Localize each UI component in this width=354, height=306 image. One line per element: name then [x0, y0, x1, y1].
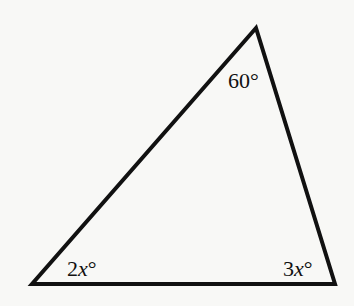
- angle-bottom-left-degree: °: [88, 256, 97, 281]
- angle-bottom-right-number: 3: [283, 256, 294, 281]
- triangle-diagram: 60° 2x° 3x°: [0, 0, 354, 306]
- angle-bottom-right-variable: x: [294, 256, 304, 281]
- angle-label-top: 60°: [228, 70, 259, 92]
- angle-bottom-left-variable: x: [78, 256, 88, 281]
- angle-top-degree: °: [250, 68, 259, 93]
- angle-label-bottom-right: 3x°: [283, 258, 313, 280]
- angle-bottom-left-number: 2: [67, 256, 78, 281]
- angle-bottom-right-degree: °: [304, 256, 313, 281]
- angle-top-number: 60: [228, 68, 250, 93]
- angle-label-bottom-left: 2x°: [67, 258, 97, 280]
